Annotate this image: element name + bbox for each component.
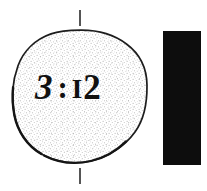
bottom-tick-mark [79, 168, 81, 184]
time-label: 3:I2 [35, 70, 101, 105]
time-minute-second-digit: 2 [83, 68, 101, 107]
time-hour: 3 [35, 68, 53, 107]
time-separator: : [53, 70, 72, 105]
top-tick-mark [79, 10, 81, 26]
time-minute-first-digit: I [72, 74, 84, 104]
time-minute: I2 [72, 68, 101, 107]
solid-black-bar [163, 31, 201, 165]
